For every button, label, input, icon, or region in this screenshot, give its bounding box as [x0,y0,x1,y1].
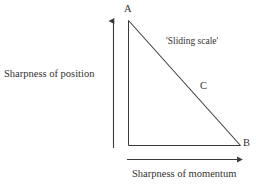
y-axis-label: Sharpness of position [4,69,94,80]
figure-root: A B C 'Sliding scale' Sharpness of posit… [0,0,256,184]
diagram-canvas [0,0,256,184]
vertex-label-b: B [243,138,250,149]
x-axis-label: Sharpness of momentum [132,169,236,180]
sliding-scale-annotation: 'Sliding scale' [166,37,218,47]
vertex-label-a: A [124,4,132,15]
vertex-label-c: C [200,81,207,92]
